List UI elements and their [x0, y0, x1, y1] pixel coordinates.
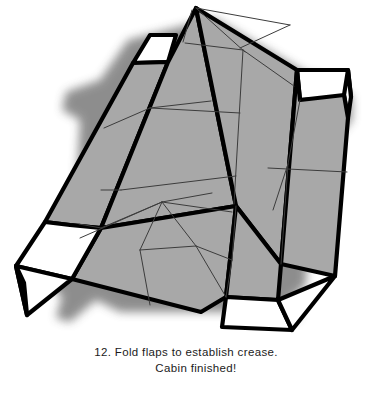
- diagram-page: Folded cabin papercraft diagram: [0, 0, 366, 394]
- caption-block: 12. Fold flaps to establish crease. Cabi…: [0, 344, 366, 376]
- cabin-body: [45, 8, 348, 312]
- cabin-fold-diagram: Folded cabin papercraft diagram: [0, 0, 366, 340]
- caption-line-2: Cabin finished!: [0, 360, 366, 376]
- caption-line-1: 12. Fold flaps to establish crease.: [0, 344, 366, 360]
- crease-roof-x-2: [240, 25, 290, 48]
